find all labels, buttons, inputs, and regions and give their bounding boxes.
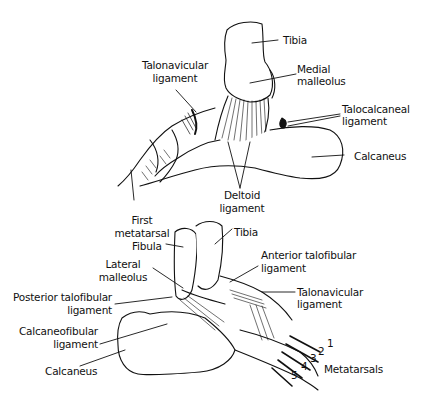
label-metatarsal-2: 2 xyxy=(318,345,324,357)
label-calcaneus-bottom: Calcaneus xyxy=(45,365,97,377)
label-medial-malleolus-line2: malleolus xyxy=(297,75,346,87)
label-posterior-talofibular-line2: ligament xyxy=(4,304,112,316)
label-first-metatarsal-line1: First xyxy=(112,214,172,226)
label-anterior-talofibular-line1: Anterior talofibular xyxy=(261,249,356,261)
label-talonavicular-bottom-line1: Talonavicular xyxy=(297,286,363,298)
label-talocalcaneal-line1: Talocalcaneal xyxy=(342,103,410,115)
label-calcaneus-top: Calcaneus xyxy=(354,150,406,162)
label-talonavicular-bottom-line2: ligament xyxy=(297,298,342,310)
label-first-metatarsal-line2: metatarsal xyxy=(112,227,172,239)
label-lateral-malleolus-line2: malleolus xyxy=(96,271,150,283)
label-tibia-top: Tibia xyxy=(283,34,307,46)
label-fibula: Fibula xyxy=(132,240,162,252)
label-calcaneofibular-line2: ligament xyxy=(4,338,98,350)
label-medial-malleolus-line1: Medial xyxy=(297,63,330,75)
label-metatarsal-4: 4 xyxy=(301,360,307,372)
ankle-ligaments-figure: Tibia Medial malleolus Talonavicular lig… xyxy=(0,0,428,407)
label-metatarsal-3: 3 xyxy=(310,352,316,364)
top-foot-drawing xyxy=(118,22,343,186)
label-metatarsal-5: 5 xyxy=(291,369,297,381)
label-talonavicular-top-line1: Talonavicular xyxy=(138,59,212,71)
label-calcaneofibular-line1: Calcaneofibular xyxy=(4,325,98,337)
label-talocalcaneal-line2: ligament xyxy=(342,115,387,127)
label-deltoid-line1: Deltoid xyxy=(220,189,264,201)
label-tibia-bottom: Tibia xyxy=(234,226,258,238)
label-anterior-talofibular-line2: ligament xyxy=(261,262,306,274)
label-deltoid-line2: ligament xyxy=(216,202,268,214)
label-metatarsals: Metatarsals xyxy=(324,363,383,375)
label-posterior-talofibular-line1: Posterior talofibular xyxy=(4,291,112,303)
leader-lines xyxy=(80,40,344,366)
label-talonavicular-top-line2: ligament xyxy=(138,72,212,84)
label-lateral-malleolus-line1: Lateral xyxy=(96,258,150,270)
label-metatarsal-1: 1 xyxy=(327,337,333,349)
